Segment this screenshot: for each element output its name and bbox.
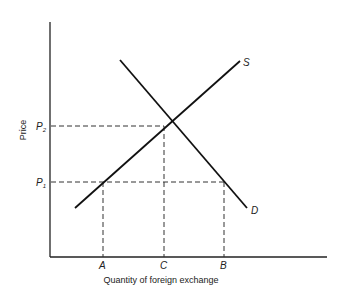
x-axis-title: Quantity of foreign exchange [103,275,218,285]
y-axis-title: Price [18,120,28,141]
demand-label: D [251,205,258,216]
guide-lines [51,126,224,257]
foreign-exchange-diagram: S D P2 P1 A C B Quantity of foreign exch… [0,0,343,298]
quantity-b-label: B [220,260,227,271]
supply-curve [75,61,240,208]
supply-label: S [243,57,250,68]
demand-curve [120,60,247,208]
quantity-c-label: C [160,260,168,271]
quantity-a-label: A [98,260,106,271]
p1-label: P1 [36,177,46,189]
p2-label: P2 [36,121,47,133]
